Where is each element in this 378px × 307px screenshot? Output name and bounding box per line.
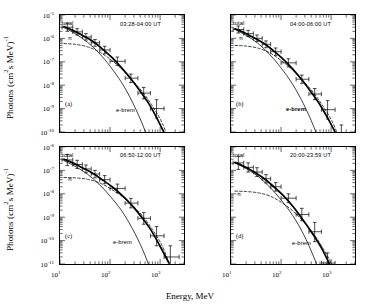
- data-point: [262, 175, 270, 183]
- y-tick-label: 10-11: [18, 260, 54, 269]
- y-tick-label: 10-7: [18, 166, 54, 175]
- panel-a-total-label: total: [62, 20, 73, 26]
- y-tick-label: 10-6: [18, 143, 54, 152]
- curve-total: [64, 27, 169, 132]
- panel-c-total-label: total: [62, 152, 73, 158]
- panel-b-pion-label: π: [239, 35, 243, 41]
- y-tick-label: 10-10: [18, 236, 54, 245]
- panel-d-total-label: total: [233, 152, 244, 158]
- data-point: [321, 101, 335, 119]
- panel-b-plot: [231, 15, 355, 132]
- panel-c-plot: [60, 147, 184, 264]
- data-point: [164, 246, 179, 264]
- panel-c-pion-label: π: [68, 176, 72, 182]
- x-tick-label: 101: [222, 270, 232, 279]
- x-tick-label: 101: [51, 270, 61, 279]
- panel-b-total-label: total: [233, 20, 244, 26]
- x-tick-label: 102: [101, 270, 111, 279]
- y-tick-label: 10-9: [18, 213, 54, 222]
- panel-a: [59, 14, 185, 133]
- panel-a-pion-label: π: [68, 35, 72, 41]
- y-tick-label: 10-5: [18, 11, 54, 20]
- panel-a-ebrem-label: e-brem: [116, 107, 135, 113]
- data-point: [233, 156, 244, 169]
- panel-d-letter: (d): [236, 232, 243, 239]
- panel-c-letter: (c): [65, 232, 72, 239]
- panel-d: [230, 146, 356, 265]
- x-tick-label: 102: [272, 270, 282, 279]
- y-axis-label-bottom: Photons (cm2s MeV)-1: [2, 150, 15, 268]
- panel-d-ebrem-label: e-brem: [292, 240, 311, 246]
- curve-e-brem: [235, 163, 331, 264]
- panel-c-time-label: 06:50-12:00 UT: [120, 152, 161, 158]
- data-point: [150, 100, 164, 118]
- panel-c-ebrem-label: e-brem: [113, 239, 132, 245]
- panel-a-letter: (a): [65, 100, 72, 107]
- y-tick-label: 10-8: [18, 81, 54, 90]
- curve-total: [64, 159, 169, 263]
- curve-total: [235, 29, 340, 132]
- y-axis-label-bottom-text: Photons (cm2s MeV)-1: [5, 167, 15, 250]
- curve-pion: [235, 191, 337, 264]
- curve-total: [235, 162, 337, 264]
- y-axis-label-top-text: Photons (cm2s MeV)-1: [5, 35, 15, 118]
- data-point: [110, 184, 125, 193]
- y-tick-label: 10-10: [18, 128, 54, 137]
- panel-d-plot: [231, 147, 355, 264]
- y-tick-label: 10-7: [18, 57, 54, 66]
- panel-a-time-label: 03:28-04:00 UT: [120, 21, 161, 27]
- x-tick-label: 103: [322, 270, 332, 279]
- curve-e-brem: [64, 28, 160, 132]
- x-axis-label: Energy, MeV: [110, 291, 270, 301]
- y-tick-label: 10-8: [18, 189, 54, 198]
- y-tick-label: 10-6: [18, 34, 54, 43]
- panel-b-letter: (b): [236, 100, 243, 107]
- panel-b-time-label: 04:00-06:00 UT: [290, 21, 331, 27]
- panel-a-plot: [60, 15, 184, 132]
- data-point: [335, 125, 350, 132]
- figure-canvas: Photons (cm2s MeV)-1 Photons (cm2s MeV)-…: [0, 0, 378, 307]
- y-tick-label: 10-9: [18, 104, 54, 113]
- panel-b: [230, 14, 356, 133]
- panel-c: [59, 146, 185, 265]
- panel-d-pion-label: π: [237, 191, 241, 197]
- data-point: [100, 176, 110, 184]
- panel-b-ebrem-label: e-brem: [286, 106, 306, 112]
- y-axis-label-top: Photons (cm2s MeV)-1: [2, 18, 15, 136]
- curve-e-brem: [235, 30, 331, 133]
- panel-d-time-label: 20:00-23:59 UT: [290, 152, 331, 158]
- x-tick-label: 103: [151, 270, 161, 279]
- curve-e-brem: [64, 161, 160, 264]
